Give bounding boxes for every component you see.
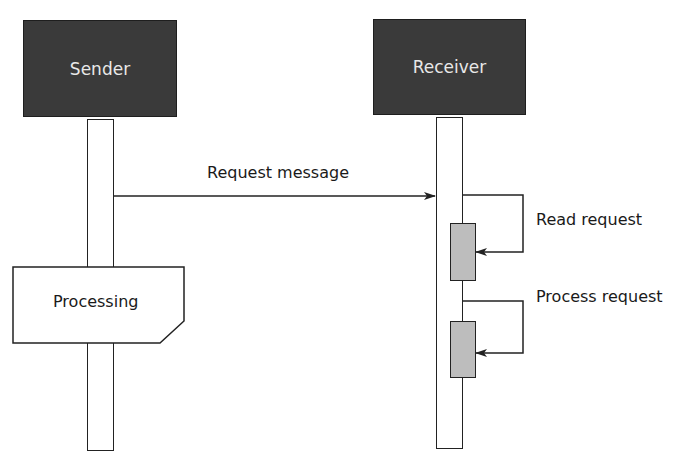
process-request-label: Process request: [536, 287, 663, 306]
read-request-label: Read request: [536, 210, 642, 229]
diagram-connectors: [0, 0, 685, 462]
request-message-label: Request message: [207, 163, 349, 182]
read-request-activation: [450, 223, 476, 281]
processing-note-label: Processing: [53, 292, 138, 311]
process-request-activation: [450, 321, 476, 378]
